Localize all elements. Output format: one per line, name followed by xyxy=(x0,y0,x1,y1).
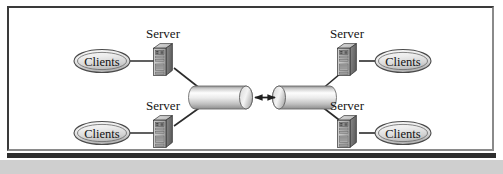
server-top-left[interactable]: Server xyxy=(146,26,181,75)
clients-bottom-left[interactable]: Clients xyxy=(74,122,130,145)
cylinder-left[interactable] xyxy=(189,86,253,109)
clients-top-right[interactable]: Clients xyxy=(375,50,431,73)
server-bottom-left[interactable]: Server xyxy=(146,98,181,147)
server-top-right[interactable]: Server xyxy=(330,26,365,75)
server-label: Server xyxy=(146,98,181,113)
clients-label: Clients xyxy=(385,127,421,141)
server-label: Server xyxy=(146,26,181,41)
clients-bottom-right[interactable]: Clients xyxy=(375,122,431,145)
frame-bottom-band xyxy=(0,160,503,174)
figure-root: Clients Clients Clients Clients Server S… xyxy=(0,0,503,174)
network-topology-diagram: Clients Clients Clients Clients Server S… xyxy=(7,6,494,151)
cylinder-right[interactable] xyxy=(273,86,337,109)
clients-top-left[interactable]: Clients xyxy=(74,50,130,73)
server-label: Server xyxy=(330,26,365,41)
clients-label: Clients xyxy=(84,127,120,141)
clients-label: Clients xyxy=(385,55,421,69)
clients-label: Clients xyxy=(84,55,120,69)
server-label: Server xyxy=(330,98,365,113)
server-bottom-right[interactable]: Server xyxy=(330,98,365,147)
